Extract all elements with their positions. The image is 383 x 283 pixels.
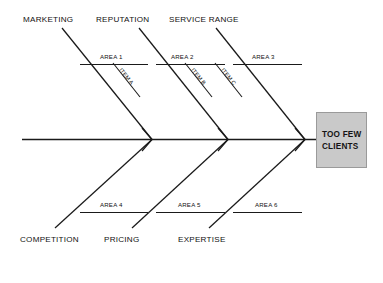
- area-label-5: AREA 5: [178, 201, 201, 208]
- area-label-4: AREA 4: [100, 201, 123, 208]
- effect-label-line2: CLIENTS: [322, 142, 359, 151]
- area-label-2: AREA 2: [171, 53, 194, 60]
- area-label-3: AREA 3: [252, 53, 275, 60]
- effect-box: [317, 113, 367, 168]
- effect-label-line1: TOO FEW: [322, 130, 362, 139]
- category-label-reputation: REPUTATION: [96, 15, 149, 24]
- bone-expertise: [209, 140, 305, 229]
- category-label-expertise: EXPERTISE: [178, 235, 226, 244]
- fishbone-diagram: MARKETING REPUTATION SERVICE RANGE COMPE…: [0, 0, 383, 283]
- item-label-b: ITEM B: [190, 67, 207, 86]
- item-label-c: ITEM C: [220, 67, 237, 86]
- bone-pricing: [132, 140, 228, 229]
- category-label-service-range: SERVICE RANGE: [169, 15, 239, 24]
- item-label-a: ITEM A: [118, 67, 135, 86]
- bone-marketing: [62, 28, 152, 140]
- category-label-marketing: MARKETING: [23, 15, 73, 24]
- fishbone-canvas: MARKETING REPUTATION SERVICE RANGE COMPE…: [0, 0, 383, 283]
- category-label-pricing: PRICING: [104, 235, 139, 244]
- area-label-1: AREA 1: [100, 53, 123, 60]
- bone-service-range: [216, 28, 305, 140]
- bone-competition: [55, 140, 152, 229]
- bone-reputation: [139, 28, 228, 140]
- category-label-competition: COMPETITION: [20, 235, 79, 244]
- area-label-6: AREA 6: [255, 201, 278, 208]
